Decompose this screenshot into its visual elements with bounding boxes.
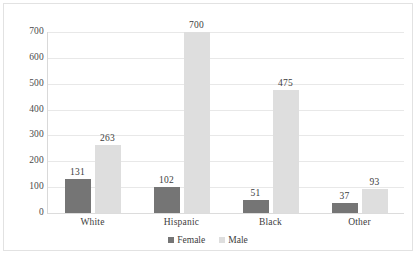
bar-value-label: 131 <box>58 167 98 177</box>
bar-group: 102700Hispanic <box>137 32 226 213</box>
bar-male-white[interactable] <box>95 145 121 213</box>
legend-item-female[interactable]: Female <box>168 235 205 245</box>
bar-value-label: 51 <box>236 188 276 198</box>
y-axis-tick-labels: 0100200300400500600700 <box>4 32 44 213</box>
bar-female-black[interactable] <box>243 200 269 213</box>
plot-area: 131263White102700Hispanic51475Black3793O… <box>48 32 404 213</box>
bar-value-label: 263 <box>88 133 128 143</box>
bar-group: 3793Other <box>315 32 404 213</box>
legend-label: Male <box>228 235 248 245</box>
bar-female-white[interactable] <box>65 179 91 213</box>
y-tick-label: 200 <box>8 156 44 166</box>
y-tick-label: 400 <box>8 105 44 115</box>
bar-value-label: 93 <box>355 177 395 187</box>
gridline-0 <box>48 213 404 214</box>
y-tick-label: 100 <box>8 182 44 192</box>
chart-container: 0100200300400500600700 131263White102700… <box>3 3 413 251</box>
x-axis-label-other: Other <box>315 217 405 227</box>
y-tick-label: 600 <box>8 53 44 63</box>
x-axis-label-black: Black <box>226 217 316 227</box>
bar-value-label: 475 <box>266 78 306 88</box>
y-tick-label: 700 <box>8 27 44 37</box>
y-tick-label: 300 <box>8 130 44 140</box>
bar-group: 51475Black <box>226 32 315 213</box>
bar-male-black[interactable] <box>273 90 299 213</box>
bar-group: 131263White <box>48 32 137 213</box>
legend-swatch-icon <box>168 237 174 243</box>
y-tick-label: 0 <box>8 208 44 218</box>
legend-item-male[interactable]: Male <box>219 235 248 245</box>
bar-male-other[interactable] <box>362 189 388 213</box>
bar-value-label: 102 <box>147 175 187 185</box>
legend-label: Female <box>177 235 205 245</box>
bar-value-label: 37 <box>325 191 365 201</box>
bar-male-hispanic[interactable] <box>184 32 210 213</box>
bar-female-other[interactable] <box>332 203 358 213</box>
chart-legend: FemaleMale <box>4 235 412 245</box>
bar-female-hispanic[interactable] <box>154 187 180 213</box>
y-tick-label: 500 <box>8 79 44 89</box>
bar-value-label: 700 <box>177 20 217 30</box>
x-axis-label-white: White <box>48 217 138 227</box>
legend-swatch-icon <box>219 237 225 243</box>
x-axis-label-hispanic: Hispanic <box>137 217 227 227</box>
